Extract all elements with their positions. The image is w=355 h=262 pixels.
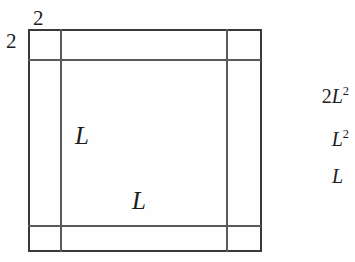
answer-option-2: L (332, 166, 343, 186)
answer-option-0: 2L2 (322, 86, 349, 106)
dimension-label-inner-horizontal-L: L (132, 188, 146, 213)
diagram-canvas: 2 2 L L 2L2 L2 L (0, 0, 355, 262)
answer-option-0-coefficient: 2 (322, 85, 332, 107)
answer-option-1: L2 (332, 129, 349, 149)
dimension-label-left-2: 2 (6, 31, 17, 52)
outer-square-right-edge (260, 29, 262, 252)
inner-square-left-edge (60, 29, 62, 252)
answer-option-1-variable: L (332, 128, 343, 150)
answer-option-0-variable: L (332, 85, 343, 107)
dimension-label-top-2: 2 (33, 8, 44, 29)
outer-square-left-edge (28, 29, 30, 252)
answer-option-0-exponent: 2 (343, 84, 349, 98)
dimension-label-inner-vertical-L: L (75, 123, 89, 148)
answer-option-2-variable: L (332, 165, 343, 187)
answer-option-1-exponent: 2 (343, 127, 349, 141)
inner-square-right-edge (226, 29, 228, 252)
